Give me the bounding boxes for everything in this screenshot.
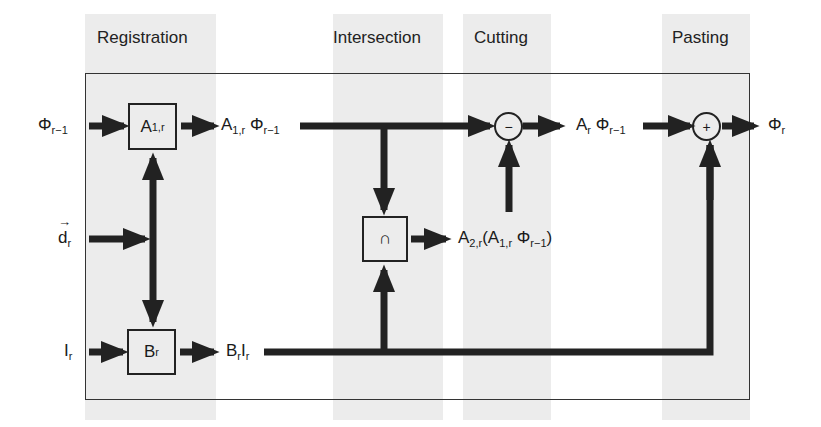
signal-a2r: A2,r(A1,r Φr−1) <box>458 229 552 249</box>
block-br: Br <box>127 329 176 375</box>
signal-wires <box>0 0 821 427</box>
intersection-icon: ∩ <box>379 229 391 249</box>
block-a1r: A1,r <box>128 103 177 150</box>
input-phi-prev: Φr−1 <box>38 116 68 136</box>
signal-a1r-phi: A1,r Φr−1 <box>221 116 280 136</box>
plus-node: + <box>692 112 721 141</box>
signal-ar-phi: Ar Φr−1 <box>576 116 626 136</box>
input-image: Ir <box>64 342 72 362</box>
input-displacement: → dr <box>58 229 71 249</box>
plus-icon: + <box>702 119 710 135</box>
output-phi: Φr <box>768 116 785 136</box>
vector-arrow-icon: → <box>58 215 71 228</box>
block-intersection: ∩ <box>362 216 408 262</box>
minus-node: − <box>494 112 523 141</box>
minus-icon: − <box>504 119 512 135</box>
signal-br-ir: BrIr <box>226 342 249 362</box>
